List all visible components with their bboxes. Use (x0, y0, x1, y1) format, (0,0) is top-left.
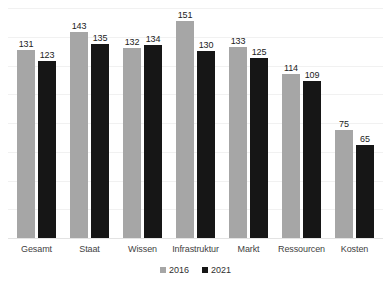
bar-groups: 1311231431351321341511301331251141097565 (8, 8, 383, 238)
bar-group: 7565 (328, 8, 381, 238)
square-marker-icon (202, 267, 208, 273)
bar-2021-wissen[interactable] (144, 45, 162, 238)
bar-group: 133125 (222, 8, 275, 238)
category-axis: GesamtStaatWissenInfrastrukturMarktResso… (8, 240, 383, 258)
bar-value-label: 132 (125, 37, 140, 47)
bar-2021-kosten[interactable] (356, 145, 374, 238)
bar-group: 131123 (10, 8, 63, 238)
axis-baseline (8, 238, 383, 239)
bar-value-label: 125 (252, 47, 267, 57)
bar-wrap: 133 (229, 8, 247, 238)
category-label-wissen: Wissen (116, 240, 169, 258)
bar-wrap: 132 (123, 8, 141, 238)
bar-value-label: 151 (178, 10, 193, 20)
bar-2021-ressourcen[interactable] (303, 81, 321, 238)
bar-group: 132134 (116, 8, 169, 238)
bar-2021-markt[interactable] (250, 58, 268, 238)
category-label-kosten: Kosten (328, 240, 381, 258)
bar-chart: 1311231431351321341511301331251141097565… (0, 0, 391, 293)
bar-wrap: 114 (282, 8, 300, 238)
square-marker-icon (160, 267, 166, 273)
bar-2016-kosten[interactable] (335, 130, 353, 238)
bar-2016-staat[interactable] (70, 32, 88, 238)
category-label-infrastruktur: Infrastruktur (169, 240, 222, 258)
bar-wrap: 131 (17, 8, 35, 238)
bar-2016-gesamt[interactable] (17, 50, 35, 238)
category-label-staat: Staat (63, 240, 116, 258)
bar-2016-markt[interactable] (229, 47, 247, 238)
bar-2016-ressourcen[interactable] (282, 74, 300, 238)
category-label-ressourcen: Ressourcen (275, 240, 328, 258)
bar-value-label: 114 (284, 63, 298, 73)
bar-2021-staat[interactable] (91, 44, 109, 238)
plot-area: 1311231431351321341511301331251141097565 (8, 8, 383, 238)
bar-wrap: 125 (250, 8, 268, 238)
bar-value-label: 134 (146, 34, 161, 44)
bar-group: 114109 (275, 8, 328, 238)
legend-item-2021[interactable]: 2021 (202, 265, 231, 275)
bar-wrap: 130 (197, 8, 215, 238)
bar-wrap: 143 (70, 8, 88, 238)
legend-label: 2021 (211, 265, 231, 275)
bar-wrap: 151 (176, 8, 194, 238)
bar-value-label: 135 (93, 33, 108, 43)
bar-wrap: 65 (356, 8, 374, 238)
legend-label: 2016 (169, 265, 189, 275)
category-label-gesamt: Gesamt (10, 240, 63, 258)
category-label-markt: Markt (222, 240, 275, 258)
bar-value-label: 131 (19, 39, 34, 49)
bar-wrap: 123 (38, 8, 56, 238)
bar-value-label: 75 (339, 119, 349, 129)
bar-value-label: 143 (72, 21, 87, 31)
bar-value-label: 123 (40, 50, 55, 60)
bar-group: 151130 (169, 8, 222, 238)
bar-value-label: 133 (231, 36, 246, 46)
chart-legend: 20162021 (0, 262, 391, 278)
bar-2021-gesamt[interactable] (38, 61, 56, 238)
bar-wrap: 134 (144, 8, 162, 238)
bar-2016-infrastruktur[interactable] (176, 21, 194, 238)
bar-value-label: 65 (360, 134, 370, 144)
bar-value-label: 109 (305, 70, 320, 80)
bar-2016-wissen[interactable] (123, 48, 141, 238)
bar-wrap: 109 (303, 8, 321, 238)
bar-group: 143135 (63, 8, 116, 238)
bar-wrap: 135 (91, 8, 109, 238)
bar-2021-infrastruktur[interactable] (197, 51, 215, 238)
bar-value-label: 130 (199, 40, 214, 50)
legend-item-2016[interactable]: 2016 (160, 265, 189, 275)
bar-wrap: 75 (335, 8, 353, 238)
